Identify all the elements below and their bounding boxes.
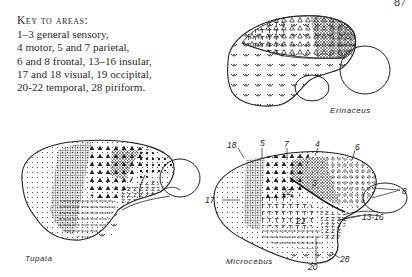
microcebus-brain: 18 5 7 4 6 8 17 22 3 21 13-16 28 20 Micr… — [205, 138, 407, 272]
area-label-18: 18 — [227, 140, 237, 150]
area-label-5: 5 — [260, 138, 265, 148]
brain-diagrams: Erinaceus Tupaia — [0, 0, 412, 277]
area-label-4: 4 — [315, 139, 320, 149]
area-label-28: 28 — [339, 254, 350, 264]
erinaceus-label: Erinaceus — [330, 106, 371, 115]
tupaia-label: Tupaia — [25, 254, 52, 263]
microcebus-label: Microcebus — [226, 257, 273, 266]
area-label-20: 20 — [307, 262, 318, 272]
tupaia-brain: Tupaia — [22, 140, 200, 263]
area-label-13-16: 13-16 — [362, 212, 384, 222]
area-label-7: 7 — [284, 139, 289, 149]
area-label-8: 8 — [402, 186, 407, 196]
area-label-22: 22 — [281, 187, 292, 197]
area-label-21: 21 — [295, 216, 306, 226]
erinaceus-brain: Erinaceus — [227, 15, 390, 115]
area-label-6: 6 — [355, 142, 360, 152]
area-label-3: 3 — [312, 178, 317, 188]
area-label-17: 17 — [205, 195, 215, 205]
